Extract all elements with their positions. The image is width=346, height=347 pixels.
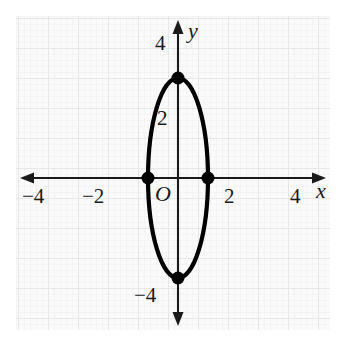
y-tick-label-neg4: −4: [134, 285, 156, 306]
x-axis-label: x: [316, 180, 326, 202]
graph-figure: −4 −2 2 4 4 2 −4 y x O: [0, 0, 346, 347]
x-axis: [20, 173, 326, 184]
y-tick-label-4: 4: [155, 33, 166, 54]
point-bottom-vertex: [172, 272, 185, 285]
x-tick-label-4: 4: [290, 186, 301, 207]
origin-label: O: [155, 183, 171, 205]
point-top-vertex: [172, 72, 185, 85]
point-right-covertex: [202, 172, 215, 185]
x-tick-label-neg4: −4: [22, 186, 44, 207]
graph-canvas: [0, 0, 346, 347]
y-axis-label: y: [188, 20, 198, 42]
x-tick-label-2: 2: [224, 186, 235, 207]
y-tick-label-2: 2: [157, 108, 168, 129]
y-axis-bottom-arrow-icon: [173, 312, 184, 326]
x-axis-left-arrow-icon: [20, 173, 34, 184]
y-axis-top-arrow-icon: [173, 20, 184, 34]
x-tick-label-neg2: −2: [82, 186, 104, 207]
point-left-covertex: [142, 172, 155, 185]
